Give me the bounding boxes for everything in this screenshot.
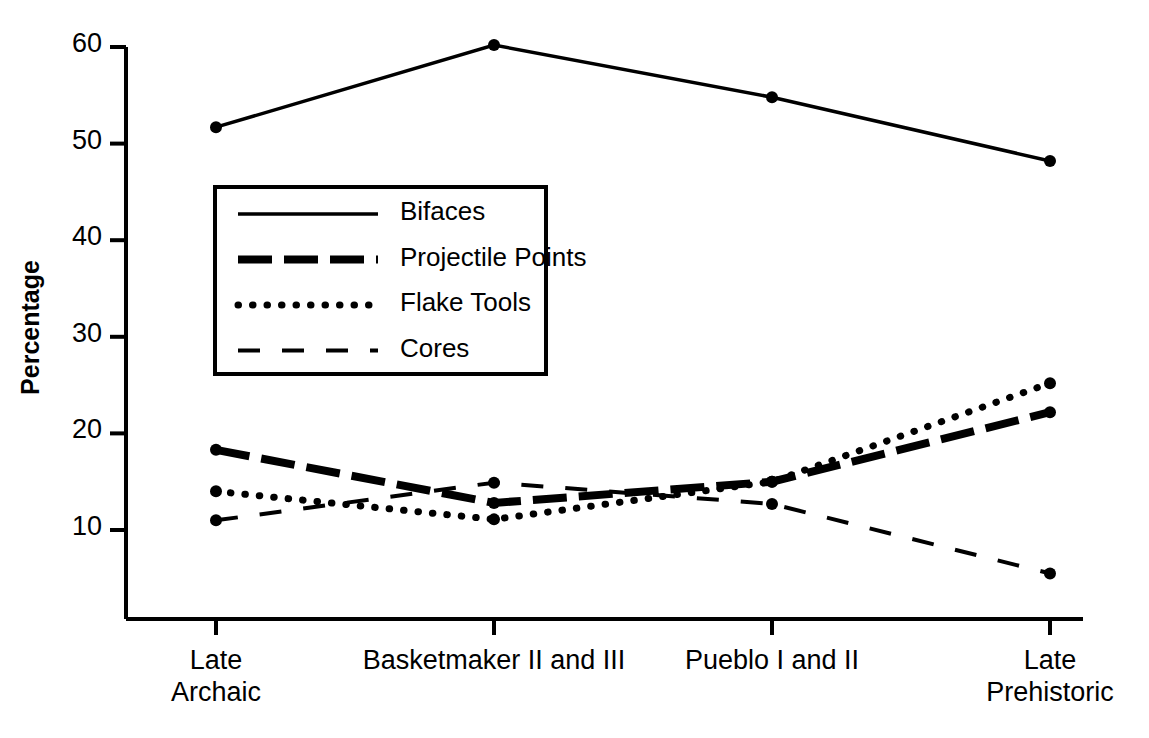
- data-point: [210, 444, 222, 456]
- series-line-flake-tools: [216, 383, 1050, 519]
- y-tick-label: 40: [32, 221, 102, 252]
- series-line-bifaces: [216, 45, 1050, 161]
- chart-container: Percentage 102030405060 Late ArchaicBask…: [0, 0, 1149, 738]
- legend-label-cores: Cores: [400, 333, 469, 364]
- x-tick-label: Late Prehistoric: [890, 645, 1149, 709]
- data-point: [1044, 155, 1056, 167]
- data-series-group: [210, 39, 1056, 579]
- data-point: [488, 39, 500, 51]
- x-tick-label: Basketmaker II and III: [334, 645, 654, 677]
- y-tick-label: 30: [32, 318, 102, 349]
- legend-swatches: [238, 214, 378, 351]
- data-point: [210, 121, 222, 133]
- data-point: [766, 91, 778, 103]
- y-tick-label: 10: [32, 511, 102, 542]
- legend-label-flake-tools: Flake Tools: [400, 287, 531, 318]
- data-point: [1044, 567, 1056, 579]
- y-tick-label: 60: [32, 28, 102, 59]
- data-point: [488, 497, 500, 509]
- chart-plot-area: [0, 0, 1149, 738]
- y-axis-ticks: [110, 47, 126, 530]
- data-point: [210, 485, 222, 497]
- data-point: [766, 476, 778, 488]
- legend-label-bifaces: Bifaces: [400, 196, 485, 227]
- legend-label-projectile-points: Projectile Points: [400, 242, 586, 273]
- y-tick-label: 50: [32, 125, 102, 156]
- data-point: [1044, 406, 1056, 418]
- data-point: [1044, 377, 1056, 389]
- x-tick-label: Pueblo I and II: [612, 645, 932, 677]
- data-point: [488, 477, 500, 489]
- data-point: [766, 498, 778, 510]
- y-tick-label: 20: [32, 414, 102, 445]
- data-point: [488, 513, 500, 525]
- x-tick-label: Late Archaic: [56, 645, 376, 709]
- data-point: [210, 514, 222, 526]
- x-axis-ticks: [216, 619, 1050, 635]
